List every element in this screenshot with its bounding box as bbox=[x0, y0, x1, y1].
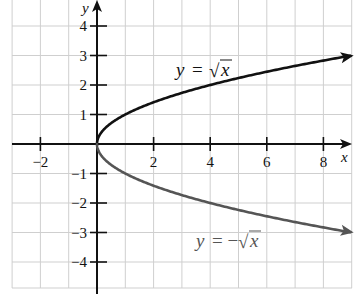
labels: y x y = √ x y = − √ x bbox=[80, 0, 348, 252]
y-tick-label: −3 bbox=[71, 225, 87, 241]
x-tick-label: −2 bbox=[32, 154, 48, 170]
svg-text:√: √ bbox=[209, 60, 220, 81]
x-tick-label: 6 bbox=[263, 154, 271, 170]
y-tick-label: −2 bbox=[71, 195, 87, 211]
y-tick-label: 3 bbox=[80, 48, 88, 64]
svg-text:√: √ bbox=[238, 231, 249, 252]
lower-curve-label: y = − √ x bbox=[194, 230, 261, 252]
y-tick-label: −4 bbox=[71, 254, 87, 270]
x-tick-label: 8 bbox=[320, 154, 328, 170]
y-tick-label: 1 bbox=[80, 107, 88, 123]
upper-curve-label: y = √ x bbox=[174, 59, 232, 81]
svg-text:= −: = − bbox=[212, 230, 238, 251]
y-tick-label: −1 bbox=[71, 166, 87, 182]
chart: −224684321−1−2−3−4 y x y = √ x y = − √ x bbox=[0, 0, 359, 300]
y-tick-label: 4 bbox=[80, 18, 88, 34]
svg-text:y: y bbox=[194, 230, 205, 251]
x-tick-label: 2 bbox=[150, 154, 158, 170]
svg-text:x: x bbox=[220, 59, 230, 80]
svg-text:=: = bbox=[192, 59, 203, 80]
neg-sqrt-curve bbox=[97, 144, 350, 232]
svg-text:y: y bbox=[174, 59, 185, 80]
y-axis-label: y bbox=[80, 0, 89, 16]
svg-text:x: x bbox=[249, 230, 259, 251]
x-axis-label: x bbox=[340, 149, 348, 165]
y-tick-label: 2 bbox=[80, 77, 88, 93]
x-tick-label: 4 bbox=[206, 154, 214, 170]
